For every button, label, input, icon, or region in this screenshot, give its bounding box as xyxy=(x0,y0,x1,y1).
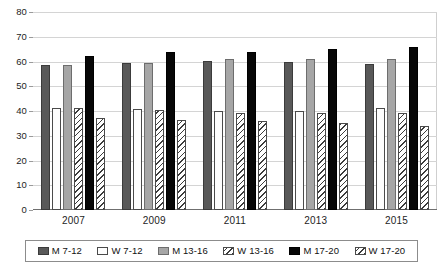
bar-m-17-20-2009 xyxy=(166,52,175,210)
bar-m-7-12-2011 xyxy=(203,61,212,210)
chart-legend: M 7-12W 7-12M 13-16W 13-16M 17-20W 17-20 xyxy=(25,240,418,262)
bar-group-2013 xyxy=(275,12,356,210)
legend-item-m-7-12[interactable]: M 7-12 xyxy=(38,246,82,256)
bar-w-7-12-2007 xyxy=(52,108,61,210)
x-tick-label-2009: 2009 xyxy=(114,212,195,230)
legend-swatch-m-17-20-icon xyxy=(289,247,300,255)
bar-m-7-12-2009 xyxy=(122,63,131,210)
y-tick-label: 40 xyxy=(16,106,27,116)
bar-w-17-20-2009 xyxy=(177,120,186,210)
y-tick-label: 0 xyxy=(22,205,27,215)
bar-m-7-12-2013 xyxy=(284,62,293,211)
bar-w-17-20-2013 xyxy=(339,123,348,210)
legend-label: M 13-16 xyxy=(172,246,208,256)
bar-group-2011 xyxy=(195,12,276,210)
bar-w-13-16-2013 xyxy=(317,113,326,210)
legend-label: W 13-16 xyxy=(237,246,274,256)
bar-chart: 01020304050607080 20072009201120132015 M… xyxy=(0,0,443,275)
legend-label: M 17-20 xyxy=(303,246,339,256)
legend-item-m-17-20[interactable]: M 17-20 xyxy=(289,246,339,256)
bar-groups xyxy=(33,12,437,210)
bar-m-17-20-2011 xyxy=(247,52,256,210)
bar-w-7-12-2011 xyxy=(214,111,223,210)
y-tick-label: 30 xyxy=(16,131,27,141)
bar-w-17-20-2015 xyxy=(420,126,429,210)
plot-area: 01020304050607080 xyxy=(0,0,443,232)
y-tick-label: 20 xyxy=(16,156,27,166)
bar-m-17-20-2015 xyxy=(409,47,418,210)
legend-item-m-13-16[interactable]: M 13-16 xyxy=(158,246,208,256)
legend-swatch-w-13-16-icon xyxy=(223,247,234,255)
y-tick-label: 80 xyxy=(16,7,27,17)
bar-w-7-12-2009 xyxy=(133,109,142,210)
y-axis: 01020304050607080 xyxy=(0,0,30,232)
bar-group-2009 xyxy=(114,12,195,210)
bar-m-7-12-2015 xyxy=(365,64,374,210)
bar-w-7-12-2015 xyxy=(376,108,385,210)
legend-swatch-m-13-16-icon xyxy=(158,247,169,255)
bar-m-13-16-2011 xyxy=(225,59,234,210)
legend-item-w-7-12[interactable]: W 7-12 xyxy=(97,246,142,256)
x-tick-label-2011: 2011 xyxy=(195,212,276,230)
y-tick-label: 10 xyxy=(16,181,27,191)
bar-w-7-12-2013 xyxy=(295,111,304,210)
legend-swatch-w-7-12-icon xyxy=(97,247,108,255)
legend-swatch-m-7-12-icon xyxy=(38,247,49,255)
bar-group-2015 xyxy=(356,12,437,210)
x-tick-label-2015: 2015 xyxy=(356,212,437,230)
bar-w-13-16-2015 xyxy=(398,113,407,210)
legend-label: W 7-12 xyxy=(111,246,142,256)
bar-w-13-16-2007 xyxy=(74,108,83,210)
legend-swatch-w-17-20-icon xyxy=(355,247,366,255)
legend-label: W 17-20 xyxy=(369,246,406,256)
bar-m-17-20-2007 xyxy=(85,56,94,210)
y-axis-tick xyxy=(29,210,33,211)
bar-m-13-16-2015 xyxy=(387,59,396,210)
bar-m-13-16-2013 xyxy=(306,59,315,210)
bar-w-17-20-2011 xyxy=(258,121,267,210)
y-tick-label: 60 xyxy=(16,57,27,67)
y-tick-label: 70 xyxy=(16,32,27,42)
legend-label: M 7-12 xyxy=(52,246,82,256)
bar-m-13-16-2009 xyxy=(144,63,153,211)
bar-w-13-16-2011 xyxy=(236,113,245,210)
legend-item-w-13-16[interactable]: W 13-16 xyxy=(223,246,274,256)
x-tick-label-2013: 2013 xyxy=(275,212,356,230)
bar-m-13-16-2007 xyxy=(63,65,72,210)
bar-m-17-20-2013 xyxy=(328,49,337,210)
y-tick-label: 50 xyxy=(16,82,27,92)
legend-item-w-17-20[interactable]: W 17-20 xyxy=(355,246,406,256)
x-tick-label-2007: 2007 xyxy=(33,212,114,230)
bar-w-17-20-2007 xyxy=(96,118,105,210)
bar-w-13-16-2009 xyxy=(155,110,164,210)
bar-m-7-12-2007 xyxy=(41,65,50,210)
x-axis: 20072009201120132015 xyxy=(33,212,437,230)
bar-group-2007 xyxy=(33,12,114,210)
